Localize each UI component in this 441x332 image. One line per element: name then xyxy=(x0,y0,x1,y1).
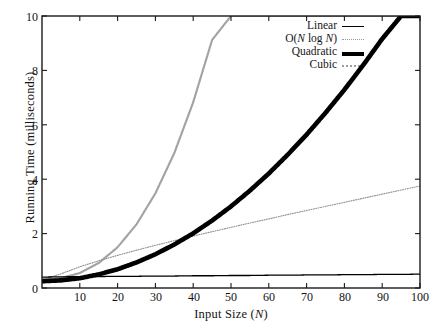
axis-ticks xyxy=(42,16,420,288)
data-curves xyxy=(42,16,420,281)
axis-frame xyxy=(42,16,420,288)
series-curve-quadratic xyxy=(42,16,420,281)
chart-figure: Running Time (milliseconds) 10 8 6 4 2 0… xyxy=(0,0,441,332)
series-curve-cubic xyxy=(42,16,420,280)
series-curve-nlogn xyxy=(42,186,420,280)
plot-area xyxy=(0,0,441,332)
